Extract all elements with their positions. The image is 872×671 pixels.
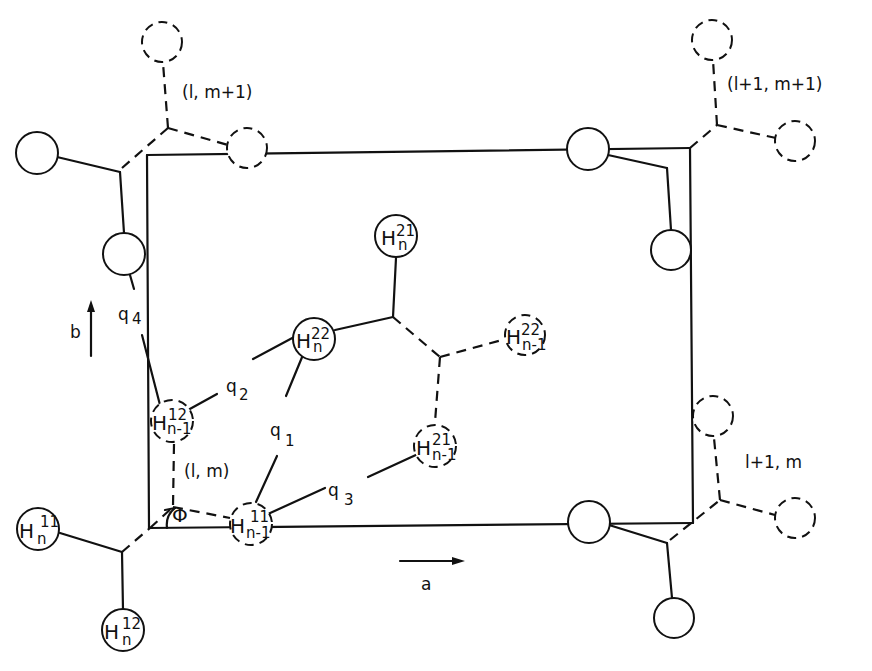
atom-Hn1-22: H 22 n-1 (505, 315, 546, 355)
molecule-l-m1 (16, 22, 267, 275)
atom-circle-dashed (227, 128, 267, 168)
svg-text:H: H (506, 325, 521, 349)
svg-text:a: a (421, 574, 431, 594)
angle-phi-label: Φ (172, 503, 188, 527)
svg-text:11: 11 (40, 513, 59, 531)
svg-text:n-1: n-1 (432, 446, 456, 464)
atom-circle-dashed (775, 121, 815, 161)
svg-text:n-1: n-1 (246, 524, 270, 542)
svg-text:n: n (398, 236, 408, 254)
atom-Hn22: H 22 n (293, 318, 335, 360)
label-q4: q 4 (118, 304, 142, 328)
svg-text:q: q (118, 304, 129, 324)
svg-text:H: H (152, 411, 167, 435)
atom-circle-dashed (142, 22, 182, 62)
atom-circle-dashed (692, 20, 732, 60)
arrow-right-icon (452, 557, 465, 565)
svg-text:1: 1 (285, 432, 295, 450)
atom-circle-dashed (693, 396, 733, 436)
atom-Hn21: H 21 n (375, 215, 417, 257)
svg-text:n: n (37, 530, 47, 548)
label-q3: q 3 (328, 480, 354, 509)
atom-circle-dashed (775, 498, 815, 538)
atom-circle (16, 132, 58, 174)
svg-text:3: 3 (344, 491, 354, 509)
svg-text:q: q (226, 376, 237, 396)
svg-text:n: n (313, 338, 323, 356)
label-q1: q 1 (270, 420, 295, 450)
svg-text:H: H (416, 436, 431, 460)
axis-b: b (70, 300, 95, 356)
svg-text:n: n (122, 631, 132, 649)
svg-text:H: H (230, 514, 245, 538)
atom-Hn12: H 12 n (102, 609, 144, 651)
svg-text:n-1: n-1 (167, 420, 191, 438)
molecule-central (335, 258, 502, 422)
atom-Hn11: H 11 n (17, 508, 59, 550)
svg-text:H: H (296, 329, 311, 353)
arrow-up-icon (87, 300, 95, 312)
svg-text:b: b (70, 322, 81, 342)
svg-text:4: 4 (132, 310, 142, 328)
svg-text:H: H (104, 620, 119, 644)
unit-cell-diagram: (l, m+1) (l+1, m+1) l+1, m (0, 0, 872, 671)
atom-circle (651, 230, 691, 270)
label-q2: q 2 (226, 376, 249, 404)
atom-circle (568, 501, 610, 543)
atom-Hn1-21: H n-1 21 n-1 (414, 425, 456, 467)
svg-text:q: q (328, 480, 339, 500)
atom-circle (567, 128, 609, 170)
cell-label-l1-m1: (l+1, m+1) (727, 74, 822, 94)
svg-text:H: H (381, 226, 396, 250)
axis-a: a (400, 557, 465, 594)
svg-text:q: q (270, 420, 281, 440)
atom-circle (103, 233, 145, 275)
svg-text:n-1: n-1 (522, 336, 546, 354)
atom-Hn1-12: H 12 n-1 (151, 400, 193, 442)
cell-label-l-m1: (l, m+1) (182, 82, 252, 102)
svg-text:H: H (19, 519, 34, 543)
atom-Hn1-11: H 11 n-1 (230, 503, 272, 545)
cell-label-l-m: (l, m) (184, 461, 229, 481)
cell-label-l1-m: l+1, m (745, 452, 802, 472)
atom-circle (654, 598, 694, 638)
svg-text:2: 2 (239, 386, 249, 404)
